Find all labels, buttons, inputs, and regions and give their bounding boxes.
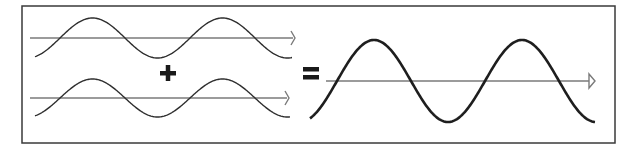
wave-sum-arrowhead-icon bbox=[589, 74, 595, 88]
equals-operator-icon bbox=[303, 67, 319, 80]
wave-b-group bbox=[30, 79, 290, 117]
diagram-frame bbox=[22, 6, 615, 143]
plus-operator-icon bbox=[160, 65, 176, 81]
wave-superposition-diagram bbox=[0, 0, 637, 150]
wave-sum-group bbox=[310, 40, 595, 122]
wave-a-group bbox=[30, 18, 295, 58]
